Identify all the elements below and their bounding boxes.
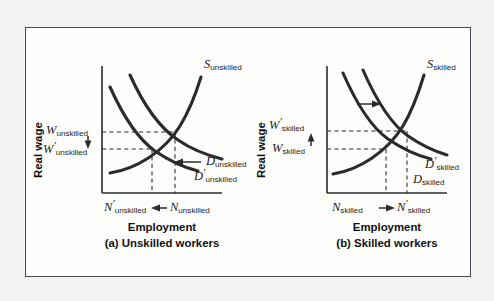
panel-b-supply-label: Sskilled: [427, 57, 456, 72]
panel-b-demand-shifted-curve: [363, 70, 447, 155]
panel-a-x-axis-title: Employment: [128, 221, 197, 233]
panel-b-caption: (b) Skilled workers: [336, 237, 437, 249]
panel-a-employment-label: Nunskilled: [169, 200, 210, 215]
panel-a-wage-shifted-label: W′unskilled: [43, 139, 87, 157]
panel-skilled-workers: Real wage: [239, 28, 462, 278]
panel-b-employment-shifted-label: N′skilled: [396, 197, 430, 215]
panel-a-wage-label: Wunskilled: [46, 123, 88, 138]
panel-b-employment-label: Nskilled: [331, 200, 363, 215]
panel-b-demand-shifted-label: D′skilled: [424, 154, 459, 172]
panel-b-wage-shifted-label: W′skilled: [269, 115, 304, 133]
panel-b-x-axis-title: Employment: [353, 221, 422, 233]
panel-a-caption: (a) Unskilled workers: [105, 237, 220, 249]
panel-a-demand-curve: [130, 75, 222, 159]
panel-a-supply-label: Sunskilled: [204, 57, 242, 72]
panel-unskilled-workers: Real wage: [26, 28, 249, 278]
panel-b-wage-increase-arrow: [308, 133, 315, 146]
panel-a-employment-shifted-label: N′unskilled: [103, 197, 146, 215]
panel-a-supply-curve: [110, 77, 201, 173]
panel-b-y-axis-title: Real wage: [255, 122, 267, 178]
panel-b-supply-curve: [333, 75, 424, 174]
panel-a-demand-shifted-curve: [110, 87, 198, 171]
panel-a-employment-decrease-arrow: [151, 204, 167, 211]
figure-frame: Real wage: [25, 27, 471, 277]
panel-b-wage-label: Wskilled: [272, 141, 305, 156]
panel-b-demand-label: Dskilled: [412, 172, 445, 187]
panel-b-employment-increase-arrow: [379, 204, 395, 211]
